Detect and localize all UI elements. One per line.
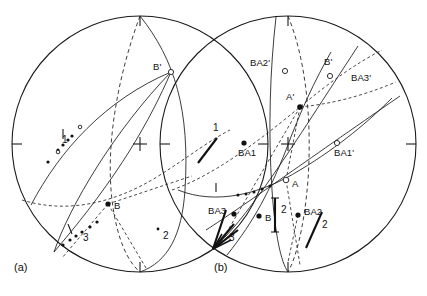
panel-a-center-cross xyxy=(133,137,147,151)
panel-b-marker-ba2 xyxy=(295,212,300,217)
label-panel-b-set-1: 1 xyxy=(213,123,219,133)
label-panel-b-ba1-prime: BA1' xyxy=(334,148,354,158)
label-panel-b-ba2-prime: BA2' xyxy=(250,58,270,68)
panel-b-group xyxy=(160,16,416,272)
panel-b-marker-b-prime xyxy=(327,73,332,78)
label-panel-b-ba3-prime: BA3' xyxy=(351,73,371,83)
label-panel-b-ba1: BA1 xyxy=(238,148,256,158)
label-panel-b-ba2: BA2 xyxy=(304,207,322,217)
panel-a-dashed-line-3 xyxy=(108,176,192,204)
label-panel-b-set-3: 3 xyxy=(229,233,235,243)
panel-b-marker-ba3 xyxy=(231,211,236,216)
label-panel-b-ba3: BA3 xyxy=(208,206,226,216)
label-panel-b-b: B xyxy=(265,213,271,223)
panel-a-marker-b xyxy=(105,201,110,206)
panel-b-marker-b xyxy=(256,213,261,218)
panel-a-point-trail-2 xyxy=(157,228,160,231)
panel-b-dashed-circle-3 xyxy=(300,82,396,107)
label-panel-a-set-2: 2 xyxy=(163,231,169,241)
label-panel-b-b-prime: B' xyxy=(324,57,332,67)
panel-a-marker-b-prime xyxy=(168,69,173,74)
panel-b-marker-ba1-prime xyxy=(334,140,339,145)
label-panel-a-set-1: 1 xyxy=(62,135,68,145)
panel-a-great-circle-2 xyxy=(31,72,171,205)
label-panel-a-b-prime: B' xyxy=(153,62,161,72)
stereonet-canvas xyxy=(0,0,427,296)
panel-b-marker-a xyxy=(283,177,289,183)
panel-b-marker-ba2-prime xyxy=(282,68,287,73)
label-panel-b-set-2-left: 2 xyxy=(281,205,287,215)
panel-b-lineation-bar-set-2-left xyxy=(271,198,279,232)
stereonet-figure: B' B 1 2 3 (a) BA2' B' BA3' A' BA1 BA1' … xyxy=(0,0,427,296)
label-panel-b-a: A xyxy=(292,179,298,189)
panel-b-lineation-bar-set-1 xyxy=(198,138,217,163)
panel-b-marker-ba1 xyxy=(241,140,246,145)
label-panel-b-a-prime: A' xyxy=(286,92,294,102)
label-panel-a-b: B xyxy=(114,201,120,211)
panel-a-great-circle-4 xyxy=(54,72,171,252)
panel-label-b: (b) xyxy=(214,262,227,273)
panel-b-lineation-bar-set-2-right xyxy=(306,212,322,248)
panel-b-dashed-line-3 xyxy=(286,180,300,265)
panel-a-point-trail-3 xyxy=(61,220,98,246)
panel-a-dashed-line-2 xyxy=(108,204,146,268)
label-panel-b-set-2-right: 2 xyxy=(322,220,328,230)
panel-label-a: (a) xyxy=(14,262,27,273)
panel-b-marker-a-prime xyxy=(297,104,303,110)
panel-a-great-circle-3 xyxy=(54,72,171,252)
label-panel-a-set-3: 3 xyxy=(83,233,89,243)
panel-b-dashed-line-4 xyxy=(288,215,298,262)
panel-b-great-circle-3 xyxy=(206,96,400,230)
